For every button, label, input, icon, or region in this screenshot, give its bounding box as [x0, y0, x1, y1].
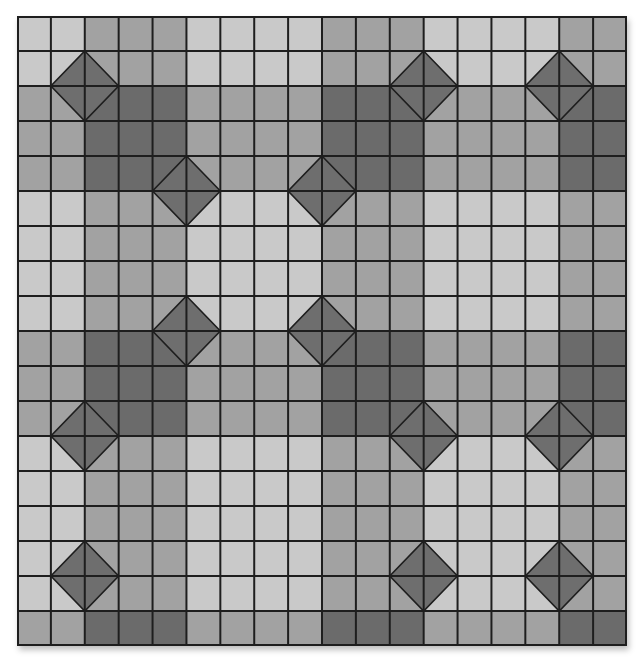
- quilt-cell: [390, 471, 424, 506]
- quilt-cell: [390, 261, 424, 296]
- quilt-cell: [17, 121, 51, 156]
- quilt-cell: [322, 226, 356, 261]
- quilt-cell: [525, 471, 559, 506]
- quilt-cell: [220, 191, 254, 226]
- quilt-cell: [458, 366, 492, 401]
- quilt-cell: [254, 471, 288, 506]
- quilt-cell: [491, 471, 525, 506]
- quilt-cell: [51, 611, 85, 646]
- quilt-cell: [525, 16, 559, 51]
- quilt-cell: [491, 436, 525, 471]
- quilt-cell: [525, 261, 559, 296]
- quilt-cell: [458, 436, 492, 471]
- quilt-cell: [593, 16, 627, 51]
- quilt-cell: [119, 16, 153, 51]
- quilt-cell: [593, 86, 627, 121]
- quilt-cell: [153, 576, 187, 611]
- quilt-cell: [458, 226, 492, 261]
- quilt-cell: [288, 611, 322, 646]
- quilt-cell: [559, 121, 593, 156]
- quilt-cell: [17, 156, 51, 191]
- quilt-cell: [119, 541, 153, 576]
- quilt-cell: [322, 541, 356, 576]
- quilt-cell: [153, 226, 187, 261]
- quilt-cell: [593, 296, 627, 331]
- quilt-cell: [491, 331, 525, 366]
- quilt-cell: [254, 191, 288, 226]
- quilt-cell: [559, 296, 593, 331]
- quilt-cell: [51, 506, 85, 541]
- quilt-cell: [186, 51, 220, 86]
- quilt-cell: [254, 226, 288, 261]
- quilt-cell: [559, 156, 593, 191]
- quilt-cell: [525, 226, 559, 261]
- quilt-cell: [254, 576, 288, 611]
- quilt-cell: [288, 121, 322, 156]
- quilt-cell: [491, 156, 525, 191]
- quilt-grid: [17, 16, 627, 646]
- quilt-cell: [356, 226, 390, 261]
- quilt-cell: [390, 16, 424, 51]
- quilt-cell: [424, 471, 458, 506]
- quilt-cell: [220, 226, 254, 261]
- quilt-cell: [458, 191, 492, 226]
- quilt-cell: [153, 436, 187, 471]
- quilt-cell: [390, 611, 424, 646]
- quilt-cell: [356, 121, 390, 156]
- quilt-cell: [288, 471, 322, 506]
- quilt-cell: [424, 331, 458, 366]
- quilt-cell: [491, 191, 525, 226]
- quilt-cell: [220, 51, 254, 86]
- quilt-cell: [153, 121, 187, 156]
- quilt-cell: [322, 576, 356, 611]
- quilt-cell: [119, 51, 153, 86]
- quilt-cell: [390, 191, 424, 226]
- quilt-cell: [220, 16, 254, 51]
- quilt-cell: [220, 366, 254, 401]
- quilt-cell: [51, 191, 85, 226]
- quilt-cell: [85, 296, 119, 331]
- quilt-cell: [458, 261, 492, 296]
- quilt-cell: [525, 156, 559, 191]
- quilt-cell: [458, 86, 492, 121]
- quilt-cell: [51, 156, 85, 191]
- quilt-cell: [356, 261, 390, 296]
- quilt-cell: [356, 506, 390, 541]
- quilt-cell: [220, 331, 254, 366]
- quilt-cell: [458, 331, 492, 366]
- quilt-cell: [491, 366, 525, 401]
- quilt-cell: [525, 366, 559, 401]
- quilt-cell: [593, 226, 627, 261]
- quilt-cell: [322, 611, 356, 646]
- quilt-cell: [458, 401, 492, 436]
- quilt-cell: [153, 16, 187, 51]
- quilt-cell: [288, 401, 322, 436]
- quilt-cell: [186, 541, 220, 576]
- quilt-cell: [525, 331, 559, 366]
- quilt-cell: [220, 611, 254, 646]
- quilt-cell: [593, 121, 627, 156]
- quilt-cell: [593, 506, 627, 541]
- quilt-cell: [17, 436, 51, 471]
- quilt-cell: [491, 296, 525, 331]
- quilt-cell: [356, 611, 390, 646]
- quilt-cell: [254, 506, 288, 541]
- quilt-cell: [220, 121, 254, 156]
- quilt-cell: [390, 226, 424, 261]
- quilt-cell: [153, 261, 187, 296]
- quilt-cell: [288, 51, 322, 86]
- quilt-cell: [17, 576, 51, 611]
- quilt-cell: [51, 331, 85, 366]
- quilt-cell: [322, 506, 356, 541]
- quilt-cell: [491, 576, 525, 611]
- quilt-cell: [119, 331, 153, 366]
- quilt-cell: [51, 366, 85, 401]
- quilt-cell: [186, 366, 220, 401]
- quilt-cell: [322, 121, 356, 156]
- quilt-cell: [186, 401, 220, 436]
- quilt-cell: [559, 506, 593, 541]
- quilt-cell: [559, 261, 593, 296]
- quilt-cell: [559, 226, 593, 261]
- quilt-cell: [390, 366, 424, 401]
- quilt-cell: [322, 471, 356, 506]
